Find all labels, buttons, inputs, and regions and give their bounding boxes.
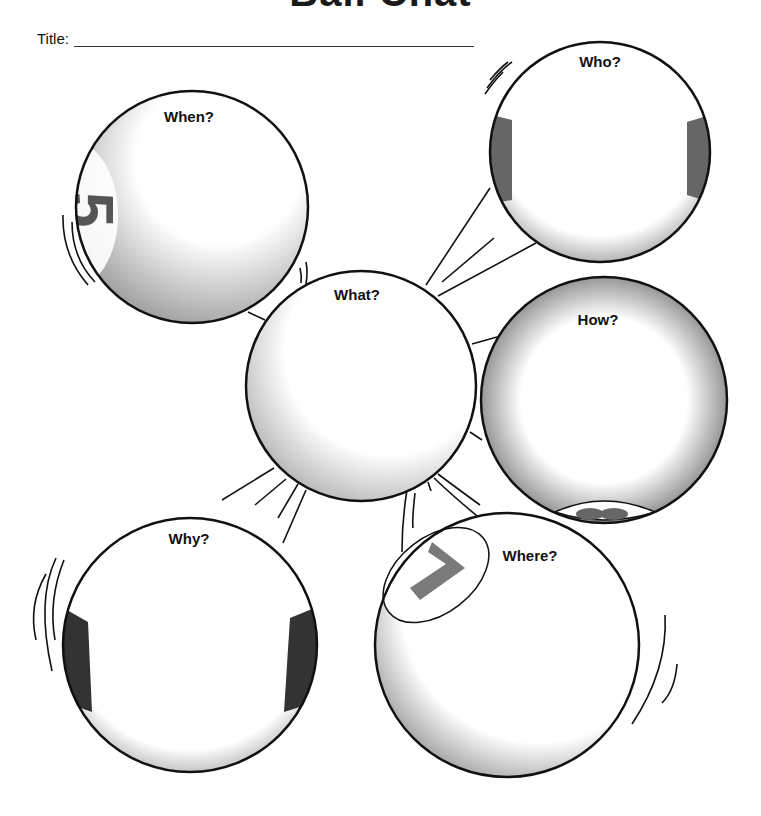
- bubble-who[interactable]: Who?: [480, 42, 720, 262]
- bubble-where[interactable]: Where?: [365, 508, 639, 777]
- bubble-what[interactable]: What?: [246, 271, 476, 501]
- bubble-label-who: Who?: [579, 53, 621, 70]
- bubble-label-why: Why?: [169, 530, 210, 547]
- bubble-how[interactable]: How?: [481, 277, 727, 523]
- bubble-label-when: When?: [164, 108, 214, 125]
- ball-number-5: 5: [54, 192, 126, 228]
- bubble-label-what: What?: [334, 286, 380, 303]
- bubble-why[interactable]: Why?: [58, 518, 322, 772]
- bubble-label-how: How?: [578, 311, 619, 328]
- bubble-label-where: Where?: [502, 547, 557, 564]
- bubble-when[interactable]: 5 When?: [22, 91, 308, 323]
- five-w-organizer: 5 When? Who? What? How? Why?: [0, 0, 761, 816]
